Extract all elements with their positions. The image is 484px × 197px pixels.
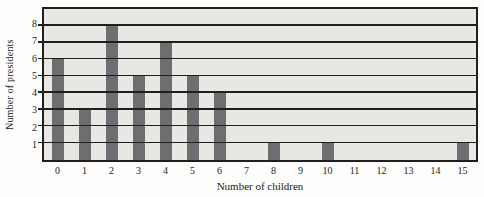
- x-axis-tick-labels: 0123456789101112131415: [44, 166, 476, 178]
- x-tick-label: 4: [163, 166, 168, 176]
- y-tick-label: 3: [32, 105, 37, 115]
- y-tick-mark: [38, 75, 44, 77]
- y-tick-label: 5: [32, 71, 37, 81]
- x-tick-label: 13: [404, 166, 414, 176]
- bar-8-children: [268, 143, 280, 160]
- gridline: [44, 41, 476, 43]
- gridline: [44, 24, 476, 26]
- x-tick-label: 8: [271, 166, 276, 176]
- gridline: [44, 142, 476, 144]
- y-tick-mark: [38, 142, 44, 144]
- gridline: [44, 108, 476, 110]
- bar-3-children: [133, 76, 145, 160]
- x-tick-label: 1: [82, 166, 87, 176]
- y-tick-label: 6: [32, 54, 37, 64]
- gridline: [44, 58, 476, 60]
- histogram-figure: Number of presidents 12345678 0123456789…: [0, 0, 484, 197]
- bar-10-children: [322, 143, 334, 160]
- plot-area: [42, 7, 478, 162]
- x-axis-title: Number of children: [42, 180, 478, 193]
- bar-2-children: [106, 26, 118, 160]
- x-tick-label: 6: [217, 166, 222, 176]
- x-tick-label: 2: [109, 166, 114, 176]
- y-tick-label: 2: [32, 123, 37, 133]
- bar-15-children: [457, 143, 469, 160]
- gridline: [44, 75, 476, 77]
- x-tick-label: 15: [458, 166, 468, 176]
- gridline: [44, 91, 476, 93]
- x-tick-label: 9: [298, 166, 303, 176]
- x-tick-label: 7: [244, 166, 249, 176]
- x-tick-label: 12: [377, 166, 387, 176]
- x-tick-label: 14: [431, 166, 441, 176]
- y-tick-label: 7: [32, 36, 37, 46]
- y-tick-mark: [38, 41, 44, 43]
- x-tick-label: 10: [323, 166, 333, 176]
- y-tick-mark: [38, 91, 44, 93]
- y-tick-mark: [38, 125, 44, 127]
- x-tick-label: 0: [55, 166, 60, 176]
- y-axis-tick-labels: 12345678: [0, 7, 37, 162]
- y-tick-label: 4: [32, 88, 37, 98]
- y-tick-mark: [38, 108, 44, 110]
- x-tick-label: 11: [350, 166, 360, 176]
- y-tick-label: 1: [32, 140, 37, 150]
- x-tick-label: 5: [190, 166, 195, 176]
- y-tick-label: 8: [32, 19, 37, 29]
- x-tick-label: 3: [136, 166, 141, 176]
- bar-1-children: [79, 110, 91, 160]
- y-tick-mark: [38, 24, 44, 26]
- gridline: [44, 125, 476, 127]
- bar-5-children: [187, 76, 199, 160]
- y-tick-mark: [38, 58, 44, 60]
